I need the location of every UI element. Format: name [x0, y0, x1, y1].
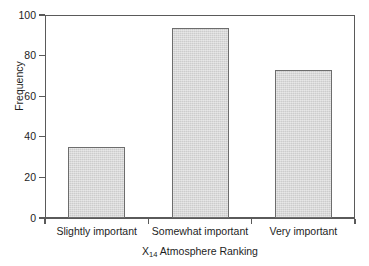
y-tick-label: 60 [24, 91, 36, 102]
bar-chart-figure: 0 20 40 60 80 100 Slightly important Som… [0, 0, 369, 266]
x-tick-mark [354, 219, 355, 224]
y-tick-label: 40 [24, 131, 36, 142]
y-tick-mark [39, 177, 45, 178]
x-tick-label-very-important: Very important [240, 225, 367, 237]
y-tick-label: 80 [24, 50, 36, 61]
y-axis-title: Frequency [13, 31, 25, 141]
y-tick-mark [39, 55, 45, 56]
x-tick-mark [251, 219, 252, 224]
y-tick-mark [39, 136, 45, 137]
y-tick-label: 100 [18, 10, 36, 21]
y-tick-mark [39, 14, 45, 15]
x-axis-title-subscript: 14 [149, 250, 157, 259]
x-axis-title-suffix: Atmosphere Ranking [158, 245, 258, 257]
x-axis-title: X14 Atmosphere Ranking [45, 245, 355, 257]
x-tick-mark [148, 219, 149, 224]
x-axis-line [45, 218, 355, 219]
plot-area-frame [45, 15, 355, 218]
y-axis-line [45, 15, 46, 218]
x-tick-mark [44, 219, 45, 224]
y-tick-mark [39, 96, 45, 97]
y-tick-label: 0 [30, 213, 36, 224]
y-tick-label: 20 [24, 172, 36, 183]
